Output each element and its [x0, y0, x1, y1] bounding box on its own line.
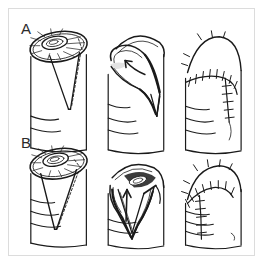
panel-a3-closure	[182, 31, 242, 154]
panel-b2-flap-advancement	[108, 164, 164, 248]
suture-marks	[182, 31, 238, 118]
figure-frame: A B	[8, 8, 255, 256]
panel-b1-defect-and-incision	[28, 145, 89, 248]
surgical-illustration	[9, 9, 254, 255]
panel-b3-closure	[182, 160, 242, 249]
panel-a2-flap-advancement	[108, 36, 164, 154]
panel-a1-defect-and-incision	[28, 27, 89, 151]
